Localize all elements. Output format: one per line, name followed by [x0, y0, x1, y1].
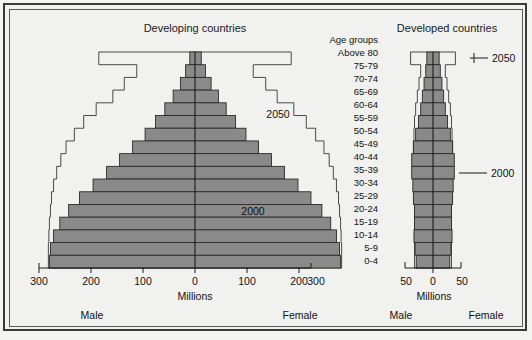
age-label-10-14: 10-14 [354, 229, 378, 240]
chart-root: Developing countries [0, 0, 532, 340]
age-label-15-19: 15-19 [354, 216, 378, 227]
developing-title: Developing countries [144, 22, 247, 34]
age-label-55-59: 55-59 [354, 112, 378, 123]
age-label-50-54: 50-54 [354, 125, 378, 136]
age-label-30-34: 30-34 [354, 177, 378, 188]
dev-xlabel-millions: Millions [177, 290, 212, 302]
dvd-male-label: Male [390, 309, 413, 321]
age-label-40-44: 40-44 [354, 151, 378, 162]
dvd-tick-0: 0 [430, 275, 436, 287]
dev-tick-200-left: 200 [82, 275, 100, 287]
bar-row [173, 90, 218, 103]
dvd-female-label: Female [468, 309, 503, 321]
dev-female-label: Female [282, 309, 317, 321]
age-label-60-64: 60-64 [354, 99, 378, 110]
age-label-25-29: 25-29 [354, 190, 378, 201]
dev-tick-300-left: 300 [30, 275, 48, 287]
dvd-annot-2000: 2000 [491, 167, 515, 179]
panel-developing: Developing countries [30, 22, 341, 321]
dev-tick-0: 0 [192, 275, 198, 287]
dvd-tick-50-right: 50 [456, 275, 468, 287]
age-label-75-79: 75-79 [354, 60, 378, 71]
age-label-20-24: 20-24 [354, 203, 378, 214]
bar-row [180, 77, 211, 90]
age-label-65-69: 65-69 [354, 86, 378, 97]
dev-annot-2050: 2050 [266, 108, 290, 120]
age-label-70-74: 70-74 [354, 73, 378, 84]
age-groups-header: Age groups [329, 34, 378, 45]
age-label-35-39: 35-39 [354, 164, 378, 175]
dvd-tick-50-left: 50 [400, 275, 412, 287]
dvd-annot-2050: 2050 [492, 52, 516, 64]
dev-tick-200-right: 200 [290, 275, 308, 287]
age-label-0-4: 0-4 [364, 255, 378, 266]
dev-tick-100-left: 100 [134, 275, 152, 287]
age-label-above-80: Above 80 [338, 47, 378, 58]
dvd-xlabel-millions: Millions [416, 290, 451, 302]
dev-tick-300-right: 300 [307, 275, 325, 287]
panel-developed: Developed countries 50 0 50 Millions Mal… [390, 22, 516, 321]
developed-title: Developed countries [397, 22, 498, 34]
plot-area: Developing countries [0, 0, 532, 340]
dev-male-label: Male [81, 309, 104, 321]
dev-tick-100-right: 100 [238, 275, 256, 287]
age-label-5-9: 5-9 [364, 242, 378, 253]
age-label-45-49: 45-49 [354, 138, 378, 149]
dev-annot-2000: 2000 [241, 205, 265, 217]
